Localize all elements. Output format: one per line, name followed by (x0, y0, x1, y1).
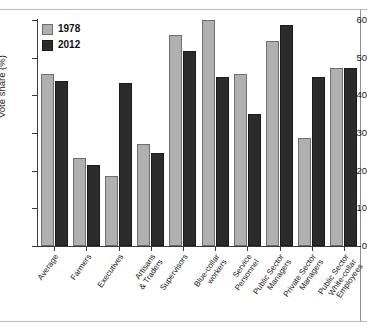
x-tick-label: Supervisors (159, 253, 190, 293)
y-tick-mark (32, 246, 37, 247)
x-tick-mark (54, 247, 55, 251)
y-tick-mark (32, 58, 37, 59)
x-tick-label: Average (37, 253, 61, 282)
title-divider (0, 9, 367, 10)
bar-1978-6 (202, 20, 215, 246)
chart-title-strip (0, 0, 367, 9)
bar-2012-5 (183, 51, 196, 246)
plot-area (38, 20, 360, 246)
x-tick-mark (344, 247, 345, 251)
bar-1978-9 (298, 138, 311, 246)
bar-2012-6 (216, 77, 229, 247)
bar-group (137, 20, 164, 246)
bar-2012-7 (248, 114, 261, 246)
bar-2012-2 (87, 165, 100, 246)
legend-label-1978: 1978 (58, 23, 80, 34)
bar-1978-2 (73, 158, 86, 246)
y-tick-mark (32, 171, 37, 172)
bar-group (41, 20, 68, 246)
bar-group (330, 20, 357, 246)
bar-2012-4 (151, 153, 164, 246)
bar-1978-3 (105, 176, 118, 246)
bar-group (169, 20, 196, 246)
bar-group (105, 20, 132, 246)
bar-1978-8 (266, 41, 279, 246)
bar-2012-3 (119, 83, 132, 246)
bar-2012-8 (280, 25, 293, 246)
y-axis-title: Vote share (%) (0, 55, 7, 118)
bar-1978-1 (41, 74, 54, 246)
x-tick-label: Blue-collarworkers (193, 253, 229, 294)
bar-1978-5 (169, 35, 182, 246)
bar-1978-10 (330, 68, 343, 246)
bar-2012-9 (312, 77, 325, 247)
x-tick-mark (247, 247, 248, 251)
frame-bottom-border (0, 321, 367, 322)
bar-group (73, 20, 100, 246)
bar-group (298, 20, 325, 246)
y-tick-mark (32, 20, 37, 21)
bar-group (266, 20, 293, 246)
x-tick-mark (312, 247, 313, 251)
legend-swatch-icon-1978 (42, 24, 53, 35)
legend-swatch-icon-2012 (42, 40, 53, 51)
y-tick-mark (32, 95, 37, 96)
legend-label-2012: 2012 (58, 39, 80, 50)
bar-1978-4 (137, 144, 150, 246)
x-tick-label: Executives (96, 253, 125, 290)
bar-1978-7 (234, 74, 247, 246)
x-tick-label: Farmers (69, 253, 93, 282)
y-tick-mark (32, 133, 37, 134)
bar-group (234, 20, 261, 246)
x-tick-mark (119, 247, 120, 251)
x-tick-mark (280, 247, 281, 251)
bar-group (202, 20, 229, 246)
bar-2012-10 (344, 68, 357, 246)
x-tick-mark (86, 247, 87, 251)
bar-2012-1 (55, 81, 68, 246)
y-tick-mark (32, 208, 37, 209)
x-tick-mark (215, 247, 216, 251)
x-tick-mark (183, 247, 184, 251)
x-tick-mark (151, 247, 152, 251)
bar-chart: Vote share (%) 6050403020100 AverageFarm… (0, 0, 367, 330)
